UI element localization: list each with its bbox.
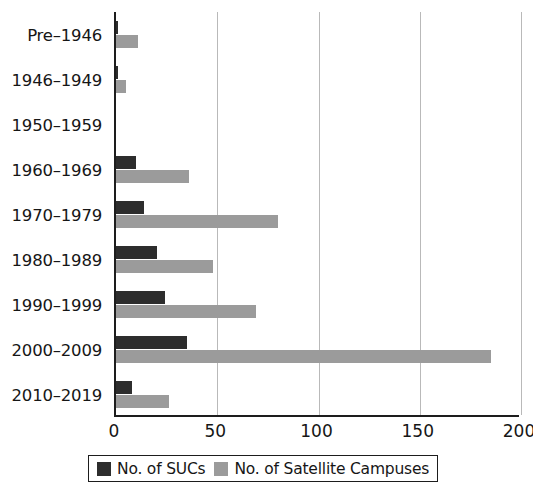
legend-swatch-icon [97, 462, 111, 476]
bar [116, 66, 118, 79]
y-axis-tick-label: Pre–1946 [0, 25, 102, 44]
bar [116, 170, 189, 183]
y-axis-category-labels: Pre–19461946–19491950–19591960–19691970–… [0, 12, 108, 417]
bar [116, 350, 491, 363]
legend-swatch-icon [214, 462, 228, 476]
y-axis-tick-label: 1980–1989 [0, 250, 102, 269]
bar [116, 260, 213, 273]
bar-group [116, 327, 519, 372]
x-axis-tick-label: 0 [109, 421, 120, 441]
bar-group [116, 282, 519, 327]
legend-entry: No. of SUCs [97, 460, 205, 478]
gridline-200 [521, 12, 522, 415]
bar-group [116, 102, 519, 147]
x-axis-tick-label: 100 [300, 421, 332, 441]
bar [116, 80, 126, 93]
bar [116, 305, 256, 318]
y-axis-tick-label: 1946–1949 [0, 70, 102, 89]
bar [116, 215, 278, 228]
x-axis-tick-label: 200 [503, 421, 533, 441]
bar [116, 201, 144, 214]
bar-group [116, 237, 519, 282]
bar [116, 336, 187, 349]
bar-group [116, 12, 519, 57]
chart-legend: No. of SUCsNo. of Satellite Campuses [88, 455, 438, 482]
x-axis-tick-labels: 050100150200 [114, 421, 519, 447]
legend-entry: No. of Satellite Campuses [214, 460, 429, 478]
y-axis-tick-label: 2010–2019 [0, 385, 102, 404]
y-axis-tick-label: 2000–2009 [0, 340, 102, 359]
legend-label: No. of Satellite Campuses [234, 460, 429, 478]
y-axis-tick-label: 1970–1979 [0, 205, 102, 224]
bar-chart: Pre–19461946–19491950–19591960–19691970–… [0, 0, 533, 488]
bar [116, 156, 136, 169]
y-axis-tick-label: 1960–1969 [0, 160, 102, 179]
bar [116, 21, 118, 34]
bar [116, 35, 138, 48]
bar-group [116, 57, 519, 102]
x-axis-tick-label: 50 [204, 421, 226, 441]
bar [116, 246, 157, 259]
bar-group [116, 147, 519, 192]
bar [116, 381, 132, 394]
legend-label: No. of SUCs [117, 460, 205, 478]
bar [116, 395, 169, 408]
y-axis-tick-label: 1950–1959 [0, 115, 102, 134]
x-axis-tick-label: 150 [402, 421, 434, 441]
plot-area [114, 12, 519, 417]
bar-group [116, 192, 519, 237]
bar [116, 291, 165, 304]
y-axis-tick-label: 1990–1999 [0, 295, 102, 314]
bar-group [116, 372, 519, 417]
